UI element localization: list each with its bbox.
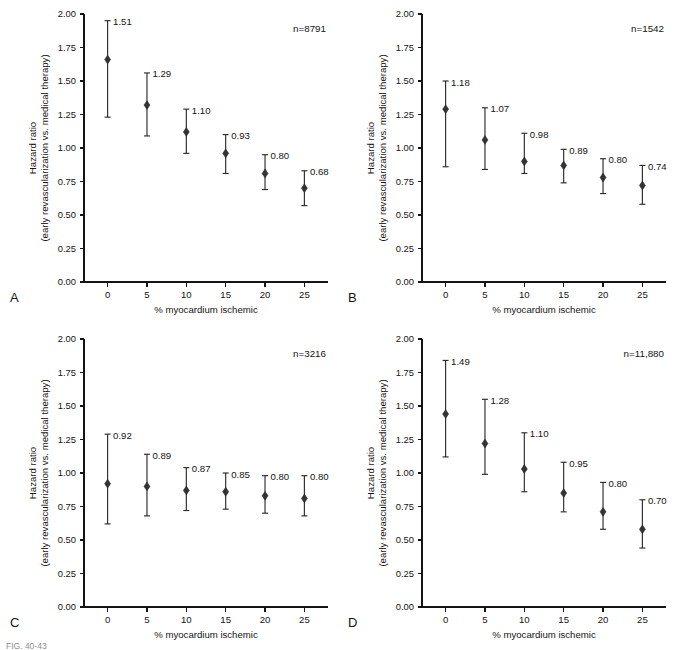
y-axis-title-line2: (early revascularization vs. medical the… — [39, 379, 50, 566]
x-tick-label: 20 — [260, 614, 271, 625]
y-tick-label: 1.50 — [396, 75, 414, 86]
panel-letter-a: A — [10, 290, 19, 305]
data-point-label: 0.80 — [310, 471, 329, 482]
data-point-label: 0.93 — [231, 130, 250, 141]
data-point-marker — [443, 105, 449, 114]
data-point-label: 0.89 — [569, 145, 588, 156]
y-tick-label: 1.75 — [58, 367, 76, 378]
sample-size-label: n=8791 — [293, 23, 326, 34]
y-tick-label: 1.50 — [396, 400, 414, 411]
y-tick-label: 1.75 — [396, 42, 414, 53]
y-axis-title-line1: Hazard ratio — [365, 122, 376, 174]
data-point-label: 0.74 — [648, 161, 667, 172]
data-point-marker — [183, 128, 189, 137]
x-axis-title: % myocardium ischemic — [154, 629, 258, 640]
data-point-label: 1.10 — [192, 105, 211, 116]
y-axis-title-line1: Hazard ratio — [365, 447, 376, 499]
data-point-marker — [561, 161, 567, 170]
x-tick-label: 20 — [260, 289, 271, 300]
data-point-marker — [105, 55, 111, 64]
y-tick-label: 0.00 — [396, 601, 414, 612]
data-point-marker — [600, 173, 606, 182]
data-point-label: 0.80 — [271, 471, 290, 482]
y-tick-label: 1.00 — [58, 142, 76, 153]
axis-spines — [84, 14, 328, 282]
data-point-marker — [223, 487, 229, 496]
y-tick-label: 1.25 — [58, 109, 76, 120]
x-tick-label: 5 — [482, 289, 487, 300]
x-tick-label: 10 — [519, 289, 530, 300]
panel-c: 0.000.250.500.751.001.251.501.752.000510… — [0, 325, 337, 650]
y-tick-label: 0.50 — [58, 209, 76, 220]
y-tick-label: 0.25 — [58, 243, 76, 254]
sample-size-label: n=11,880 — [624, 348, 665, 359]
panel-letter-b: B — [348, 290, 357, 305]
x-tick-label: 15 — [220, 289, 231, 300]
data-point-label: 0.80 — [271, 150, 290, 161]
x-axis-title: % myocardium ischemic — [492, 304, 596, 315]
y-tick-label: 0.50 — [58, 534, 76, 545]
y-tick-label: 0.50 — [396, 209, 414, 220]
data-point-label: 0.89 — [152, 450, 171, 461]
data-point-label: 0.80 — [609, 478, 628, 489]
y-tick-label: 0.75 — [58, 176, 76, 187]
y-tick-label: 1.25 — [396, 109, 414, 120]
y-tick-label: 1.00 — [58, 467, 76, 478]
y-tick-label: 0.75 — [396, 501, 414, 512]
y-tick-label: 0.50 — [396, 534, 414, 545]
data-point-label: 1.07 — [490, 103, 509, 114]
data-point-label: 1.10 — [530, 428, 549, 439]
panel-b-plot: 0.000.250.500.751.001.251.501.752.000510… — [338, 0, 675, 325]
data-point-label: 0.68 — [310, 166, 329, 177]
data-point-marker — [183, 486, 189, 495]
sample-size-label: n=3216 — [293, 348, 327, 359]
y-tick-label: 1.25 — [58, 434, 76, 445]
x-tick-label: 25 — [299, 289, 310, 300]
y-axis-title-line2: (early revascularization vs. medical the… — [39, 54, 50, 241]
y-tick-label: 0.75 — [396, 176, 414, 187]
x-tick-label: 15 — [220, 614, 231, 625]
data-point-label: 1.49 — [451, 356, 470, 367]
data-point-label: 0.70 — [648, 495, 667, 506]
y-tick-label: 0.25 — [58, 568, 76, 579]
y-tick-label: 0.25 — [396, 568, 414, 579]
y-tick-label: 0.75 — [58, 501, 76, 512]
data-point-marker — [105, 479, 111, 488]
panel-letter-c: C — [10, 615, 20, 630]
x-tick-label: 5 — [144, 289, 149, 300]
panel-d-plot: 0.000.250.500.751.001.251.501.752.000510… — [338, 325, 675, 650]
y-axis-title-line2: (early revascularization vs. medical the… — [377, 379, 388, 566]
x-tick-label: 15 — [558, 614, 569, 625]
data-point-marker — [301, 494, 307, 503]
y-tick-label: 1.00 — [396, 467, 414, 478]
x-tick-label: 25 — [637, 289, 648, 300]
data-point-marker — [639, 525, 645, 534]
panel-letter-d: D — [348, 615, 358, 630]
x-tick-label: 0 — [443, 614, 448, 625]
data-point-marker — [639, 181, 645, 190]
y-tick-label: 1.25 — [396, 434, 414, 445]
figure-root: 0.000.250.500.751.001.251.501.752.000510… — [0, 0, 675, 650]
y-tick-label: 1.50 — [58, 75, 76, 86]
data-point-marker — [262, 169, 268, 178]
data-point-label: 0.95 — [569, 458, 588, 469]
axis-spines — [422, 14, 666, 282]
x-tick-label: 5 — [144, 614, 149, 625]
x-tick-label: 10 — [181, 289, 192, 300]
panel-a: 0.000.250.500.751.001.251.501.752.000510… — [0, 0, 337, 325]
panel-d: 0.000.250.500.751.001.251.501.752.000510… — [338, 325, 675, 650]
data-point-label: 1.51 — [113, 16, 132, 27]
data-point-marker — [600, 507, 606, 516]
x-tick-label: 20 — [598, 614, 609, 625]
figure-caption: FIG. 40-43 — [6, 641, 47, 650]
y-tick-label: 1.75 — [58, 42, 76, 53]
data-point-label: 1.18 — [451, 77, 470, 88]
panel-a-plot: 0.000.250.500.751.001.251.501.752.000510… — [0, 0, 337, 325]
data-point-label: 0.85 — [231, 469, 250, 480]
x-axis-title: % myocardium ischemic — [492, 629, 596, 640]
data-point-marker — [561, 489, 567, 498]
x-tick-label: 0 — [105, 614, 110, 625]
data-point-marker — [482, 439, 488, 448]
y-tick-label: 1.50 — [58, 400, 76, 411]
x-tick-label: 0 — [443, 289, 448, 300]
